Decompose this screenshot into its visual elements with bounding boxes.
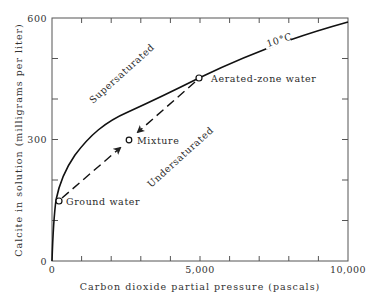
x-axis-ticks-top: [82, 18, 319, 23]
x-axis-title: Carbon dioxide partial pressure (pascals…: [80, 281, 320, 292]
x-tick-0: 0: [49, 264, 56, 275]
y-tick-300: 300: [27, 134, 47, 145]
label-ground-water: Ground water: [66, 196, 140, 207]
curve-label-10c: 10°C: [265, 30, 294, 49]
x-tick-10000: 10,000: [330, 264, 366, 275]
point-aerated-zone-water: [196, 75, 202, 81]
arrow-ground-to-mixture: [62, 148, 120, 198]
label-supersaturated: Supersaturated: [87, 41, 156, 105]
x-tick-5000: 5,000: [185, 264, 215, 275]
y-axis-title: Calcite in solution (milligrams per lite…: [13, 23, 24, 257]
y-tick-0: 0: [40, 256, 47, 267]
arrow-aerated-to-mixture: [138, 82, 195, 132]
chart-canvas: 600 300 0 0 5,000 10,000 Carbon dioxide …: [0, 0, 372, 300]
point-ground-water: [56, 198, 62, 204]
label-aerated-zone-water: Aerated-zone water: [210, 73, 316, 84]
x-axis-ticks-bottom: [82, 256, 319, 261]
label-mixture: Mixture: [137, 135, 179, 146]
y-axis-ticks-right: [342, 59, 348, 221]
y-tick-600: 600: [27, 13, 47, 24]
point-mixture: [126, 137, 132, 143]
